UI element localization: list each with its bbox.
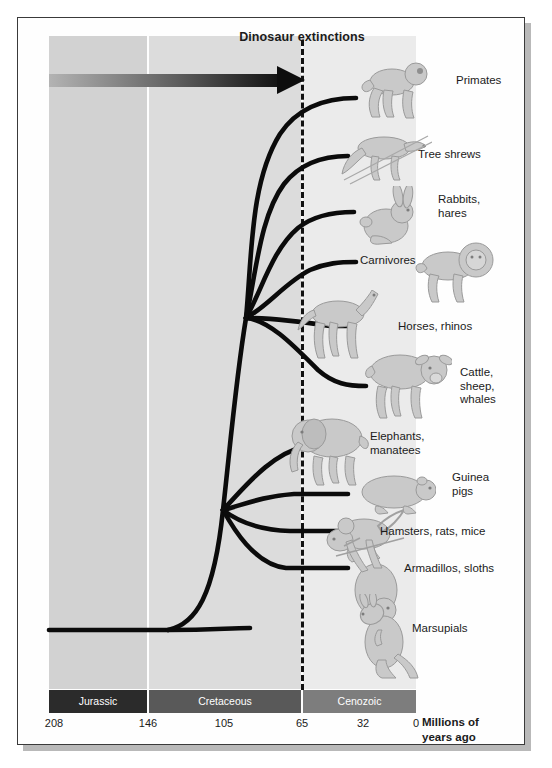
axis-tick-105: 105	[204, 717, 244, 729]
mammal-lineage-arrow	[49, 66, 304, 94]
taxon-label-elephants-manatees: Elephants, manatees	[370, 430, 424, 457]
axis-tick-65: 65	[282, 717, 322, 729]
arrow-shaft	[49, 74, 281, 87]
taxon-label-tree-shrews: Tree shrews	[418, 148, 481, 162]
taxon-label-primates: Primates	[456, 74, 501, 88]
axis-tick-32: 32	[343, 717, 383, 729]
taxon-label-marsupials: Marsupials	[412, 622, 468, 636]
era-band-cenozoic	[303, 36, 416, 689]
axis-tick-208: 208	[34, 717, 74, 729]
taxon-label-hamsters-rats-mice: Hamsters, rats, mice	[380, 525, 485, 539]
era-band-cretaceous	[149, 36, 301, 689]
taxon-label-horses-rhinos: Horses, rhinos	[398, 320, 472, 334]
geologic-period-bar: Jurassic Cretaceous Cenozoic	[49, 690, 416, 713]
period-segment-cenozoic: Cenozoic	[303, 690, 416, 713]
taxon-label-carnivores: Carnivores	[360, 254, 416, 268]
animal-lion	[414, 240, 498, 304]
axis-tick-146: 146	[128, 717, 168, 729]
taxon-label-cattle-sheep-whales: Cattle, sheep, whales	[460, 366, 496, 407]
extinction-boundary-line	[301, 40, 304, 690]
era-band-jurassic	[49, 36, 147, 689]
figure-root: Dinosaur extinctions	[0, 0, 552, 768]
taxon-label-armadillos-sloths: Armadillos, sloths	[404, 562, 494, 576]
period-segment-jurassic: Jurassic	[49, 690, 147, 713]
taxon-label-rabbits-hares: Rabbits, hares	[438, 193, 480, 220]
period-segment-cretaceous: Cretaceous	[149, 690, 301, 713]
taxon-label-guinea-pigs: Guinea pigs	[452, 471, 489, 498]
figure-panel: Dinosaur extinctions	[17, 17, 525, 745]
axis-caption: Millions of years ago	[422, 715, 518, 744]
